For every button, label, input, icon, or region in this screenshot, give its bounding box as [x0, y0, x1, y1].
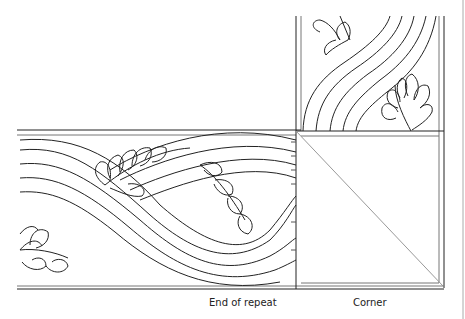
lower-feather-plume: [382, 74, 433, 131]
vertical-border: [296, 16, 444, 288]
upper-feather-plume: [313, 16, 350, 55]
end-of-repeat-label: End of repeat: [209, 297, 277, 308]
corner-square: [296, 131, 444, 286]
quilt-border-diagram: [0, 0, 465, 319]
center-feather-plume: [95, 147, 252, 234]
left-feather-plume: [20, 227, 68, 272]
corner-label: Corner: [353, 297, 387, 308]
horizontal-border: [17, 130, 444, 289]
